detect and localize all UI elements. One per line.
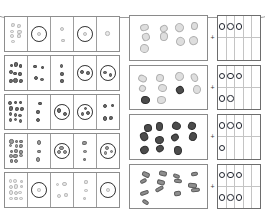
grid-cell[interactable] <box>97 17 119 51</box>
chicken-figure <box>137 73 148 83</box>
object-dot <box>11 40 14 43</box>
grid-cell[interactable] <box>28 17 51 51</box>
object-dot <box>14 62 19 67</box>
tenframe-cell[interactable] <box>252 115 260 136</box>
object-dot <box>63 112 67 116</box>
scatter-box[interactable] <box>129 164 208 210</box>
grid-cell[interactable] <box>51 95 74 129</box>
grid-cell[interactable] <box>28 95 51 129</box>
object-dot <box>9 139 13 143</box>
grid-cell[interactable] <box>5 134 28 168</box>
tenframe-cell[interactable] <box>252 66 260 87</box>
object-dot <box>38 102 42 106</box>
tenframe-cell[interactable] <box>244 187 253 208</box>
tenframe-cell[interactable] <box>218 66 227 87</box>
grid-cell[interactable] <box>51 173 74 207</box>
tenframe-cell[interactable] <box>235 88 244 109</box>
tenframe-cell[interactable] <box>235 137 244 158</box>
counter-circle-icon <box>219 172 226 179</box>
object-dot <box>10 150 13 153</box>
tenframe-cell[interactable] <box>235 115 244 136</box>
panel-chickens: + <box>129 65 261 111</box>
grid-cell[interactable] <box>28 134 51 168</box>
tenframe-cell[interactable] <box>252 88 260 109</box>
cat-figure <box>173 21 185 33</box>
scatter-box[interactable] <box>129 114 208 160</box>
object-dot <box>10 159 14 163</box>
tenframe-cell[interactable] <box>244 16 253 37</box>
tenframe-cell[interactable] <box>244 38 253 59</box>
grid-cell[interactable] <box>74 17 97 51</box>
grid-cell[interactable] <box>74 173 97 207</box>
grid-cell[interactable] <box>28 173 51 207</box>
tenframe-cell[interactable] <box>244 115 253 136</box>
counter-circle-icon <box>236 73 243 80</box>
grid-cell[interactable] <box>97 134 119 168</box>
tenframe-cell[interactable] <box>235 187 244 208</box>
object-dot <box>19 144 23 148</box>
grid-cell[interactable] <box>97 56 119 90</box>
tenframe-cell[interactable] <box>252 165 260 186</box>
tenframe-cell[interactable] <box>227 165 236 186</box>
scatter-box[interactable] <box>129 65 208 111</box>
tenframe[interactable] <box>217 114 261 160</box>
grid-cell[interactable] <box>74 95 97 129</box>
chicken-figure <box>157 96 167 104</box>
counter-circle-icon <box>219 23 226 30</box>
scatter-box[interactable] <box>129 15 208 61</box>
tenframe-cell[interactable] <box>218 16 227 37</box>
mouse-figure <box>141 171 150 179</box>
object-dot <box>9 144 12 147</box>
tenframe-cell[interactable] <box>227 137 236 158</box>
grid-cell[interactable] <box>97 173 119 207</box>
grid-cell[interactable] <box>97 95 119 129</box>
tenframe-cell[interactable] <box>227 66 236 87</box>
tenframe[interactable] <box>217 65 261 111</box>
grid-cell[interactable] <box>5 95 28 129</box>
object-dot <box>37 140 41 144</box>
mouse-figure <box>154 185 164 193</box>
tenframe-cell[interactable] <box>227 115 236 136</box>
tenframe-cell[interactable] <box>252 38 260 59</box>
grid-cell[interactable] <box>74 134 97 168</box>
tenframe-cell[interactable] <box>235 66 244 87</box>
tenframe[interactable] <box>217 15 261 61</box>
tenframe-cell[interactable] <box>244 165 253 186</box>
tenframe-cell[interactable] <box>252 137 260 158</box>
tenframe-cell[interactable] <box>218 38 227 59</box>
object-dot <box>33 65 36 68</box>
object-dot <box>105 31 109 35</box>
tenframe-cell[interactable] <box>218 88 227 109</box>
object-dot <box>60 79 64 83</box>
grid-cell[interactable] <box>51 17 74 51</box>
object-dot <box>103 116 107 120</box>
bug-figure <box>171 120 183 131</box>
tenframe-cell[interactable] <box>235 165 244 186</box>
grid-cell[interactable] <box>5 173 28 207</box>
object-dot <box>59 146 63 150</box>
grid-cell[interactable] <box>5 56 28 90</box>
object-dot <box>110 150 113 153</box>
grid-cell[interactable] <box>51 56 74 90</box>
tenframe-cell[interactable] <box>244 137 253 158</box>
tenframe-cell[interactable] <box>227 16 236 37</box>
tenframe-cell[interactable] <box>227 88 236 109</box>
tenframe-cell[interactable] <box>218 115 227 136</box>
grid-cell[interactable] <box>51 134 74 168</box>
tenframe-cell[interactable] <box>227 187 236 208</box>
tenframe-cell[interactable] <box>235 16 244 37</box>
tenframe-cell[interactable] <box>218 137 227 158</box>
tenframe-cell[interactable] <box>244 66 253 87</box>
tenframe-cell[interactable] <box>252 187 260 208</box>
tenframe-cell[interactable] <box>218 187 227 208</box>
object-dot <box>82 141 87 146</box>
tenframe-cell[interactable] <box>218 165 227 186</box>
tenframe-cell[interactable] <box>252 16 260 37</box>
grid-cell[interactable] <box>5 17 28 51</box>
grid-cell[interactable] <box>28 56 51 90</box>
tenframe-cell[interactable] <box>244 88 253 109</box>
tenframe[interactable] <box>217 164 261 210</box>
tenframe-cell[interactable] <box>235 38 244 59</box>
tenframe-cell[interactable] <box>227 38 236 59</box>
grid-cell[interactable] <box>74 56 97 90</box>
